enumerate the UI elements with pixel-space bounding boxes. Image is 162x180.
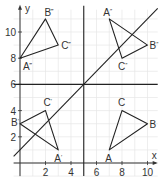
vertex-letter: C — [44, 97, 51, 108]
y-tick-label: 6 — [10, 79, 16, 90]
vertex-label-a: A — [105, 153, 112, 164]
y-tick-label: 10 — [5, 27, 17, 38]
x-axis-label: x — [152, 150, 157, 161]
labels: xy246810246810ABCA′B′C′A″B″C″A‴B‴C‴ — [5, 3, 159, 178]
vertex-label-c: C″ — [118, 61, 128, 72]
vertex-prime: ′ — [61, 154, 63, 160]
y-tick-label: 2 — [10, 132, 16, 143]
vertex-label-b: B″ — [150, 40, 160, 51]
vertex-prime: ‴ — [29, 62, 33, 68]
vertex-label-b: B‴ — [45, 7, 55, 18]
vertex-prime: ″ — [125, 62, 128, 68]
vertex-letter: C — [118, 97, 125, 108]
vertex-label-b: B — [150, 119, 157, 130]
x-tick-label: 8 — [119, 167, 125, 178]
vertex-prime: ′ — [51, 98, 53, 104]
vertex-label-c: C — [118, 97, 125, 108]
vertex-prime: ‴ — [50, 8, 54, 14]
vertex-letter: B — [150, 119, 157, 130]
vertex-prime: ″ — [110, 8, 113, 14]
vertex-letter: C — [118, 61, 125, 72]
vertex-label-c: C‴ — [61, 40, 71, 51]
vertex-letter: C — [61, 40, 68, 51]
x-tick-label: 10 — [142, 167, 154, 178]
x-tick-label: 6 — [94, 167, 100, 178]
x-tick-label: 4 — [68, 167, 74, 178]
vertex-prime: ″ — [156, 41, 159, 47]
vertex-prime: ′ — [18, 118, 20, 124]
y-tick-label: 4 — [10, 106, 16, 117]
vertex-label-a: A″ — [103, 7, 113, 18]
vertex-letter: A — [105, 153, 112, 164]
vertex-label-c: C′ — [44, 97, 53, 108]
mirror-lines — [14, 6, 158, 176]
y-axis-label: y — [25, 3, 30, 14]
vertex-label-a: A‴ — [23, 61, 33, 72]
x-axis-arrow-icon — [153, 161, 158, 165]
y-axis-arrow-icon — [18, 5, 22, 10]
vertex-label-b: B′ — [11, 117, 20, 128]
vertex-label-a: A′ — [54, 153, 63, 164]
x-tick-label: 2 — [43, 167, 49, 178]
triangle-a3b3c3 — [20, 19, 58, 58]
triangle-abc — [109, 111, 147, 150]
coordinate-diagram: xy246810246810ABCA′B′C′A″B″C″A‴B‴C‴ — [0, 0, 162, 180]
y-tick-label: 8 — [10, 53, 16, 64]
